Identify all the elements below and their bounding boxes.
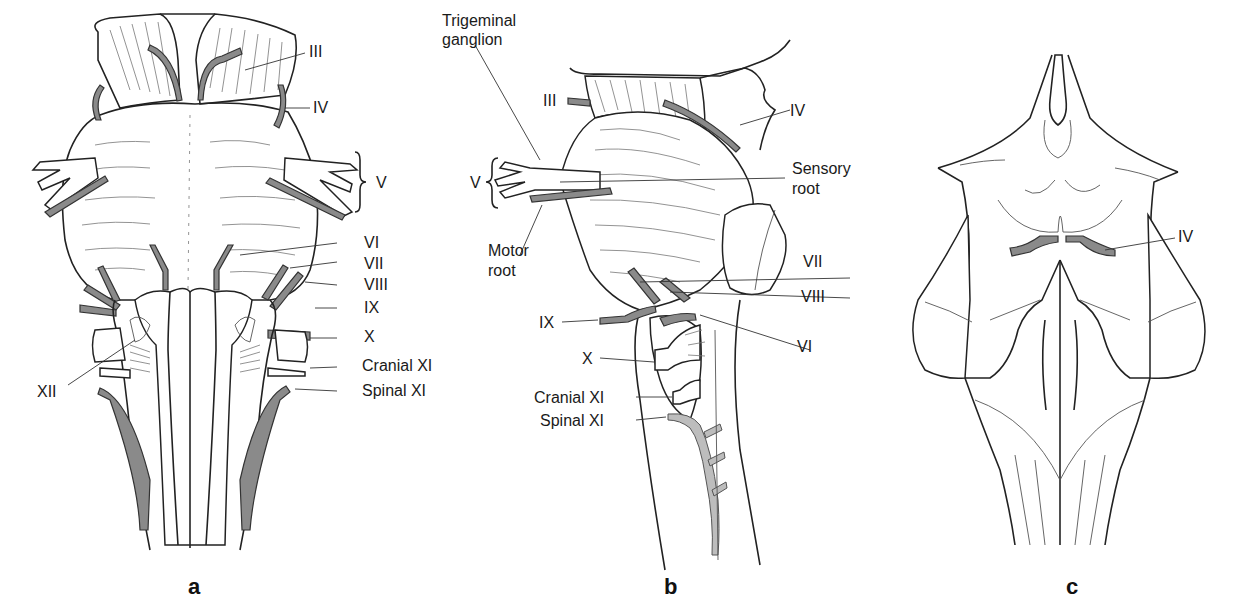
label-a-VIII: VIII xyxy=(364,276,388,294)
label-b-trigeminal-ganglion-line1: Trigeminal xyxy=(442,12,516,30)
label-b-VIII: VIII xyxy=(801,288,825,306)
label-b-motor-root-line1: Motor xyxy=(488,242,529,260)
label-b-sensory-root-line2: root xyxy=(792,180,820,198)
label-a-III: III xyxy=(309,43,322,61)
label-a-X: X xyxy=(364,328,375,346)
label-b-X: X xyxy=(582,350,593,368)
brainstem-figure xyxy=(0,0,1233,614)
label-b-VI: VI xyxy=(797,338,812,356)
label-a-XII: XII xyxy=(37,383,57,401)
label-b-motor-root-line2: root xyxy=(488,262,516,280)
label-c-IV: IV xyxy=(1178,228,1193,246)
label-a-spinal-XI: Spinal XI xyxy=(362,382,426,400)
label-a-VI: VI xyxy=(364,234,379,252)
panel-letter-a: a xyxy=(188,574,200,600)
label-b-trigeminal-ganglion-line2: ganglion xyxy=(442,31,503,49)
label-a-cranial-XI: Cranial XI xyxy=(362,357,432,375)
label-b-spinal-XI: Spinal XI xyxy=(540,412,604,430)
label-b-IX: IX xyxy=(539,314,554,332)
label-a-VII: VII xyxy=(364,255,384,273)
label-b-IV: IV xyxy=(790,102,805,120)
label-b-VII: VII xyxy=(803,253,823,271)
panel-a-drawing xyxy=(33,14,366,550)
label-a-V: V xyxy=(376,174,387,192)
label-a-IX: IX xyxy=(364,299,379,317)
label-b-sensory-root-line1: Sensory xyxy=(792,160,851,178)
panel-c-drawing xyxy=(913,55,1205,545)
label-b-cranial-XI: Cranial XI xyxy=(534,389,604,407)
label-b-III: III xyxy=(543,92,556,110)
label-b-V: V xyxy=(470,174,481,192)
panel-letter-b: b xyxy=(664,574,677,600)
panel-letter-c: c xyxy=(1066,574,1078,600)
label-a-IV: IV xyxy=(313,99,328,117)
